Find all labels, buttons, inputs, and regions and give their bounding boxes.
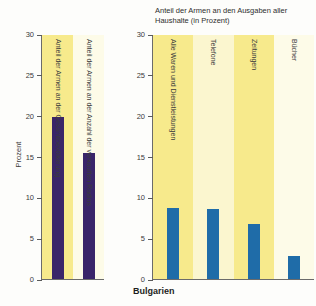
axis-tick: [148, 116, 153, 117]
axis-tick-label: 25: [129, 72, 145, 80]
axis-tick: [37, 239, 42, 240]
bar-slot: [42, 35, 73, 280]
axis-tick: [37, 75, 42, 76]
bar: [288, 256, 300, 280]
bar: [83, 153, 95, 280]
axis-tick: [148, 75, 153, 76]
bar: [248, 224, 260, 280]
right-bar-group: [153, 35, 314, 280]
left-plot-area: Anteil der Armen an der Gesamtbevölkerun…: [42, 35, 104, 280]
axis-tick: [37, 198, 42, 199]
axis-tick: [148, 198, 153, 199]
left-bar-group: [42, 35, 104, 280]
axis-tick-label: 20: [18, 113, 34, 121]
chart-figure: Anteil der Armen an der Gesamtbevölkerun…: [0, 0, 316, 306]
bar: [167, 208, 179, 280]
axis-tick-label: 30: [18, 31, 34, 39]
bar-slot: [234, 35, 274, 280]
axis-tick-label: 0: [18, 276, 34, 284]
right-plot-area: Alle Waren und DienstleistungenTelefoneZ…: [153, 35, 314, 280]
bar-slot: [274, 35, 314, 280]
axis-tick-label: 30: [129, 31, 145, 39]
axis-tick-label: 10: [18, 194, 34, 202]
right-chart-headline: Anteil der Armen an den Ausgaben aller H…: [155, 6, 315, 25]
bar-slot: [73, 35, 104, 280]
axis-tick: [148, 157, 153, 158]
axis-tick-label: 0: [129, 276, 145, 284]
right-baseline: [153, 279, 314, 280]
right-chart-panel: Alle Waren und DienstleistungenTelefoneZ…: [153, 35, 314, 280]
axis-tick-label: 5: [129, 235, 145, 243]
left-baseline: [42, 279, 104, 280]
axis-tick-label: 15: [129, 154, 145, 162]
bar-slot: [153, 35, 193, 280]
axis-tick: [37, 157, 42, 158]
right-y-axis: 051015202530: [129, 35, 153, 280]
bar: [207, 209, 219, 280]
axis-tick-label: 20: [129, 113, 145, 121]
axis-tick: [37, 280, 42, 281]
left-axis-title: Prozent: [14, 133, 23, 177]
axis-tick: [148, 35, 153, 36]
axis-tick-label: 5: [18, 235, 34, 243]
axis-tick: [37, 116, 42, 117]
axis-tick: [148, 280, 153, 281]
axis-tick: [37, 35, 42, 36]
axis-tick-label: 10: [129, 194, 145, 202]
axis-tick-label: 25: [18, 72, 34, 80]
country-caption: Bulgarien: [133, 286, 175, 296]
bar-slot: [193, 35, 233, 280]
left-chart-panel: Anteil der Armen an der Gesamtbevölkerun…: [42, 35, 104, 280]
bar: [52, 117, 64, 280]
axis-tick: [148, 239, 153, 240]
